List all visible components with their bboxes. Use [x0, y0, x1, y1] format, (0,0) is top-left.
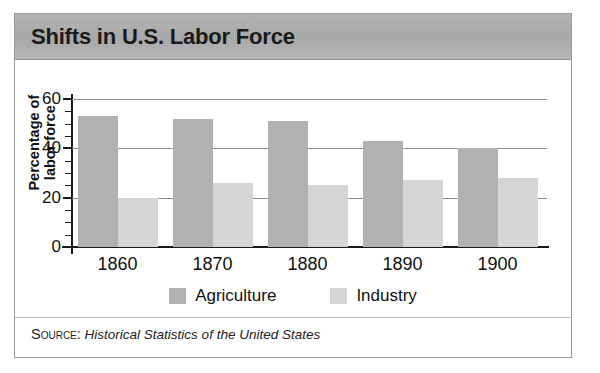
y-tick-minor-35: [65, 161, 72, 162]
legend-label-agriculture: Agriculture: [195, 286, 276, 306]
y-axis-tick-labels: 0204060: [15, 61, 61, 311]
bar-agriculture-1860: [78, 116, 118, 247]
y-tick-minor-55: [65, 111, 72, 112]
y-tick-label-60: 60: [19, 90, 61, 107]
bar-industry-1900: [498, 178, 538, 247]
gridline-60: [72, 99, 547, 100]
y-tick-major-60: [63, 98, 72, 100]
legend-swatch-industry: [330, 288, 347, 304]
figure-header-band: Shifts in U.S. Labor Force: [15, 14, 571, 60]
chart-legend: AgricultureIndustry: [15, 286, 571, 306]
y-tick-minor-25: [65, 185, 72, 186]
legend-label-industry: Industry: [356, 286, 416, 306]
y-tick-minor-5: [65, 235, 72, 236]
y-tick-label-20: 20: [19, 189, 61, 206]
figure-title: Shifts in U.S. Labor Force: [31, 24, 295, 50]
x-tick-label-1870: 1870: [178, 255, 248, 273]
y-tick-minor-30: [65, 173, 72, 174]
chart-area: Percentage of labor force 0204060 186018…: [15, 61, 571, 311]
legend-item-industry[interactable]: Industry: [330, 286, 416, 306]
legend-swatch-agriculture: [169, 288, 186, 304]
bar-industry-1880: [308, 185, 348, 247]
y-tick-major-40: [63, 147, 72, 149]
source-label: Source:: [31, 326, 81, 342]
y-tick-label-40: 40: [19, 139, 61, 156]
bar-industry-1860: [118, 198, 158, 247]
y-tick-minor-15: [65, 210, 72, 211]
y-tick-minor-45: [65, 136, 72, 137]
y-tick-minor-10: [65, 222, 72, 223]
bar-industry-1890: [403, 180, 443, 247]
bar-agriculture-1900: [458, 148, 498, 247]
y-tick-major-0: [63, 246, 72, 248]
legend-item-agriculture[interactable]: Agriculture: [169, 286, 276, 306]
x-tick-label-1900: 1900: [463, 255, 533, 273]
y-tick-major-20: [63, 197, 72, 199]
x-tick-label-1860: 1860: [83, 255, 153, 273]
x-tick-label-1890: 1890: [368, 255, 438, 273]
source-divider: [15, 317, 571, 318]
plot-area: [72, 99, 547, 247]
x-tick-label-1880: 1880: [273, 255, 343, 273]
figure-box: Shifts in U.S. Labor Force Percentage of…: [14, 13, 572, 358]
y-tick-minor-50: [65, 124, 72, 125]
source-text: Historical Statistics of the United Stat…: [85, 327, 321, 342]
bar-agriculture-1880: [268, 121, 308, 247]
bar-industry-1870: [213, 183, 253, 247]
bar-agriculture-1870: [173, 119, 213, 247]
source-line: Source: Historical Statistics of the Uni…: [31, 326, 320, 342]
bar-agriculture-1890: [363, 141, 403, 247]
y-tick-label-0: 0: [19, 238, 61, 255]
